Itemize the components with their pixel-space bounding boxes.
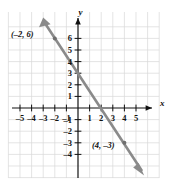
x-tick-label-minus3: –3 <box>38 113 48 123</box>
y-tick-label-3: 3 <box>68 68 72 78</box>
y-tick-label-1: 1 <box>68 91 72 101</box>
graph-screenshot: –5 –4 –3 –2 –1 1 2 3 4 5 6 5 4 3 2 1 –1 … <box>0 0 172 188</box>
y-tick-label-6: 6 <box>68 33 72 43</box>
y-tick-label-minus4: –4 <box>63 149 73 159</box>
x-tick-label-minus5: –5 <box>15 113 25 123</box>
x-axis-label: x <box>159 98 165 108</box>
x-tick-label-5: 5 <box>134 113 138 123</box>
point-marker-4-minus3 <box>122 141 126 145</box>
y-tick-label-minus1: –1 <box>63 115 73 125</box>
x-tick-label-minus2: –2 <box>50 113 60 123</box>
point-marker-minus2-6 <box>53 36 57 40</box>
point-label-b: (4, –3) <box>92 140 115 150</box>
x-tick-label-3: 3 <box>111 113 115 123</box>
x-tick-label-2: 2 <box>99 113 103 123</box>
x-tick-label-minus4: –4 <box>26 113 36 123</box>
y-tick-label-minus2: –2 <box>63 126 73 136</box>
point-label-a: (–2, 6) <box>11 29 34 39</box>
y-tick-label-2: 2 <box>68 80 72 90</box>
x-tick-label-4: 4 <box>122 113 127 123</box>
y-tick-label-minus3: –3 <box>63 138 73 148</box>
y-tick-label-5: 5 <box>68 45 72 55</box>
x-tick-label-1: 1 <box>87 113 91 123</box>
coordinate-plane-figure: –5 –4 –3 –2 –1 1 2 3 4 5 6 5 4 3 2 1 –1 … <box>0 0 172 188</box>
